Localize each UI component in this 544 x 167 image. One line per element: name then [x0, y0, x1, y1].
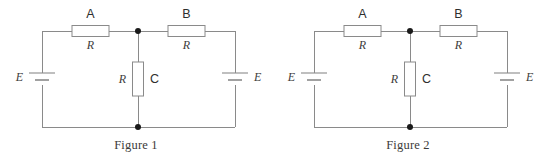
source-right-label: E: [253, 70, 262, 84]
figure-2: A R B R R C E E Figure 2: [272, 0, 544, 167]
resistor-a-body: [72, 26, 109, 37]
resistor-c-body: [405, 62, 416, 96]
source-right-label: E: [525, 70, 534, 84]
resistor-c-value: R: [118, 72, 127, 86]
resistor-c-name: C: [422, 72, 431, 86]
figure-2-caption: Figure 2: [272, 138, 544, 153]
resistor-b-name: B: [182, 7, 190, 21]
resistor-a-value: R: [358, 38, 367, 52]
junction-node-top: [407, 28, 413, 34]
resistor-b-body: [168, 26, 205, 37]
figure-2-circuit: A R B R R C E E: [272, 0, 544, 140]
resistor-a-value: R: [86, 38, 95, 52]
figure-1-caption: Figure 1: [0, 138, 272, 153]
resistor-a-name: A: [86, 7, 95, 21]
figure-1-circuit: A R B R R C E E: [0, 0, 272, 140]
resistor-b-name: B: [454, 7, 462, 21]
resistor-c-body: [133, 62, 144, 96]
source-left-label: E: [287, 70, 296, 84]
figure-1: A R B R R C E E Figure 1: [0, 0, 272, 167]
source-left-label: E: [15, 70, 24, 84]
junction-node-bottom: [407, 124, 413, 130]
resistor-c-value: R: [390, 72, 399, 86]
junction-node-bottom: [135, 124, 141, 130]
resistor-b-value: R: [182, 38, 191, 52]
junction-node-top: [135, 28, 141, 34]
resistor-a-name: A: [358, 7, 367, 21]
resistor-c-name: C: [150, 72, 159, 86]
resistor-b-value: R: [454, 38, 463, 52]
circuit-diagram-page: A R B R R C E E Figure 1: [0, 0, 544, 167]
resistor-b-body: [440, 26, 477, 37]
resistor-a-body: [344, 26, 381, 37]
